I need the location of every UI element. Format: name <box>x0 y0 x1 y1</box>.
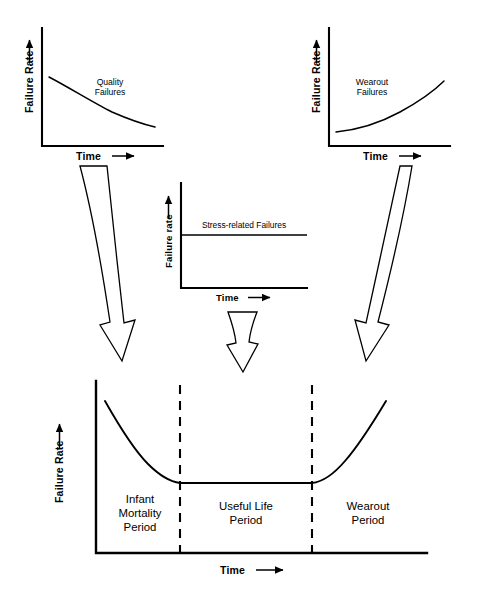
quality-y-axis-label-group: Failure Rate <box>23 40 35 113</box>
quality-x-axis-label-group: Time <box>76 150 134 162</box>
quality-to-infant-mortality-arrow <box>80 166 135 361</box>
wearout-y-axis-label-group: Failure Rate <box>310 40 322 113</box>
region-infant-line3: Period <box>124 521 157 533</box>
wearout-curve-label-line1: Wearout <box>356 77 389 87</box>
stress-y-axis-label: Failure rate <box>163 214 174 268</box>
stress-x-axis-label-group: Time <box>216 292 270 303</box>
region-infant-line2: Mortality <box>118 507 161 519</box>
bathtub-curve <box>105 401 386 483</box>
quality-x-axis-label: Time <box>76 150 101 162</box>
bathtub-region-label-infant-mortality: Infant Mortality Period <box>118 493 161 533</box>
panel-quality-failures: Failure Rate Quality Failures Time <box>23 28 163 162</box>
region-wearout-line2: Period <box>352 514 385 526</box>
wearout-curve-label-line2: Failures <box>357 87 388 97</box>
region-useful-line2: Period <box>230 514 263 526</box>
stress-y-axis-label-group: Failure rate <box>163 196 174 268</box>
wearout-to-wearout-period-arrow <box>355 166 412 361</box>
quality-curve-label-line2: Failures <box>95 87 126 97</box>
bathtub-curve-diagram: Failure Rate Quality Failures Time Failu… <box>0 0 479 595</box>
panel-bathtub-curve: Failure Rate Infant Mortality Period Use… <box>53 381 427 576</box>
bathtub-x-axis-label-group: Time <box>220 564 283 576</box>
stress-curve-label: Stress-related Failures <box>202 220 286 230</box>
bathtub-x-axis-label: Time <box>220 564 245 576</box>
quality-curve-label-line1: Quality <box>97 77 124 87</box>
stress-to-useful-life-arrow <box>227 312 258 372</box>
wearout-x-axis-label-group: Time <box>363 150 421 162</box>
wearout-x-axis-label: Time <box>363 150 388 162</box>
region-infant-line1: Infant <box>126 493 155 505</box>
bathtub-region-label-wearout: Wearout Period <box>347 500 391 526</box>
bathtub-y-axis-label: Failure Rate <box>53 440 65 503</box>
panel-stress-related-failures: Failure rate Stress-related Failures Tim… <box>163 183 307 303</box>
region-wearout-line1: Wearout <box>347 500 391 512</box>
wearout-axes <box>329 28 450 146</box>
wearout-curve <box>336 81 444 132</box>
stress-x-axis-label: Time <box>216 292 239 303</box>
region-useful-line1: Useful Life <box>219 500 273 512</box>
panel-wearout-failures: Failure Rate Wearout Failures Time <box>310 28 450 162</box>
bathtub-region-label-useful-life: Useful Life Period <box>219 500 273 526</box>
bathtub-y-axis-label-group: Failure Rate <box>53 424 65 503</box>
